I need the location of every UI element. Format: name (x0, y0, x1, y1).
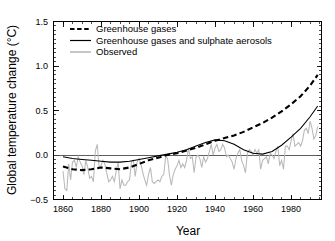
y-tick-label: −0.5 (30, 195, 48, 205)
x-tick-label: 1960 (243, 204, 263, 214)
chart-figure: Global temperature change (°C) Year −0.5… (0, 0, 335, 241)
x-axis-tick-labels: 1860188019001920194019601980 (53, 204, 301, 214)
y-tick-label: 1.5 (35, 17, 48, 27)
y-axis-tick-labels: −0.50.00.51.01.5 (30, 17, 48, 205)
x-tick-label: 1880 (91, 204, 111, 214)
x-tick-label: 1900 (129, 204, 149, 214)
x-tick-label: 1940 (205, 204, 225, 214)
y-axis-title: Global temperature change (°C) (5, 25, 19, 195)
legend-label-2: Greenhouse gases and sulphate aerosols (96, 35, 272, 46)
series-line-greenhouse-gases-and-sulphate-aerosols (63, 106, 318, 162)
y-tick-label: 0.5 (35, 106, 48, 116)
x-axis-title: Year (176, 224, 200, 238)
series-line-observed (63, 121, 318, 190)
chart-legend: Greenhouse gasesGreenhouse gases and sul… (70, 23, 272, 57)
y-tick-label: 0.0 (35, 150, 48, 160)
legend-label-1: Greenhouse gases (96, 23, 177, 34)
x-tick-label: 1920 (167, 204, 187, 214)
legend-label-3: Observed (96, 46, 137, 57)
temperature-change-line-chart: Global temperature change (°C) Year −0.5… (0, 0, 335, 241)
y-tick-label: 1.0 (35, 61, 48, 71)
data-series-group (63, 75, 318, 191)
x-tick-label: 1860 (53, 204, 73, 214)
x-tick-label: 1980 (281, 204, 301, 214)
